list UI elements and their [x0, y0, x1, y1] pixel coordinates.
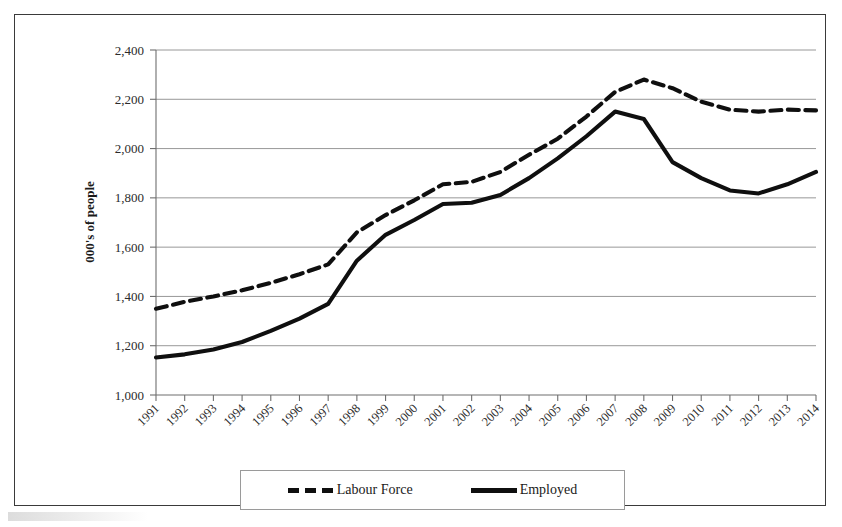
y-axis-title: 000's of people [82, 181, 97, 263]
x-axis-tick-label: 2004 [508, 401, 536, 429]
y-axis-tick-label: 1,200 [115, 338, 144, 353]
x-axis-tick-label: 2003 [479, 401, 507, 429]
x-axis-tick-label: 2001 [422, 401, 450, 429]
x-axis-tick-label: 2006 [565, 401, 593, 429]
legend-swatch-solid-icon [471, 488, 517, 493]
x-axis-tick-label: 2000 [393, 401, 421, 429]
legend-item-labour-force: Labour Force [288, 482, 413, 498]
chart-legend: Labour Force Employed [240, 470, 625, 510]
x-axis-tick-label: 2002 [450, 401, 478, 429]
data-series-group [156, 80, 816, 358]
y-axis-tick-label: 2,200 [115, 92, 144, 107]
y-axis-tick-label: 1,400 [115, 289, 144, 304]
x-axis-tick-label: 2009 [651, 401, 679, 429]
x-axis-tick-label: 2008 [622, 401, 650, 429]
x-axis-tick-label: 2013 [766, 401, 794, 429]
x-axis-tick-label: 1992 [163, 401, 191, 429]
x-axis-tick-label: 1999 [364, 401, 392, 429]
legend-swatch-dashed-icon [288, 488, 334, 493]
chart-plot-area: 1,0001,2001,4001,6001,8002,0002,2002,400… [15, 15, 827, 507]
y-axis-tick-labels: 1,0001,2001,4001,6001,8002,0002,2002,400 [115, 43, 144, 403]
y-axis-tick-label: 1,800 [115, 190, 144, 205]
legend-label-employed: Employed [520, 482, 578, 498]
y-axis-tick-label: 1,600 [115, 240, 144, 255]
x-axis-ticks-group [156, 395, 816, 401]
x-axis-tick-label: 1995 [249, 401, 277, 429]
page-edge-artifact [8, 512, 148, 521]
x-axis-tick-label: 2014 [795, 401, 823, 429]
x-axis-tick-label: 1991 [135, 401, 163, 429]
x-axis-tick-label: 1996 [278, 401, 306, 429]
x-axis-tick-labels: 1991199219931994199519961997199819992000… [135, 401, 823, 429]
x-axis-tick-label: 2007 [594, 401, 622, 429]
x-axis-tick-label: 1997 [307, 401, 335, 429]
x-axis-tick-label: 1993 [192, 401, 220, 429]
y-axis-ticks-group [150, 50, 156, 395]
x-axis-tick-label: 1994 [221, 401, 249, 429]
x-axis-tick-label: 2010 [680, 401, 708, 429]
x-axis-tick-label: 2012 [737, 401, 765, 429]
x-axis-tick-label: 2005 [536, 401, 564, 429]
y-axis-tick-label: 2,400 [115, 43, 144, 58]
figure-frame: 1,0001,2001,4001,6001,8002,0002,2002,400… [14, 14, 826, 506]
series-line-labour-force [156, 80, 816, 309]
x-axis-tick-label: 1998 [335, 401, 363, 429]
y-axis-tick-label: 1,000 [115, 388, 144, 403]
x-axis-tick-label: 2011 [709, 401, 736, 428]
y-axis-tick-label: 2,000 [115, 141, 144, 156]
legend-label-labour-force: Labour Force [337, 482, 413, 498]
line-chart: 1,0001,2001,4001,6001,8002,0002,2002,400… [15, 15, 827, 507]
legend-item-employed: Employed [471, 482, 578, 498]
